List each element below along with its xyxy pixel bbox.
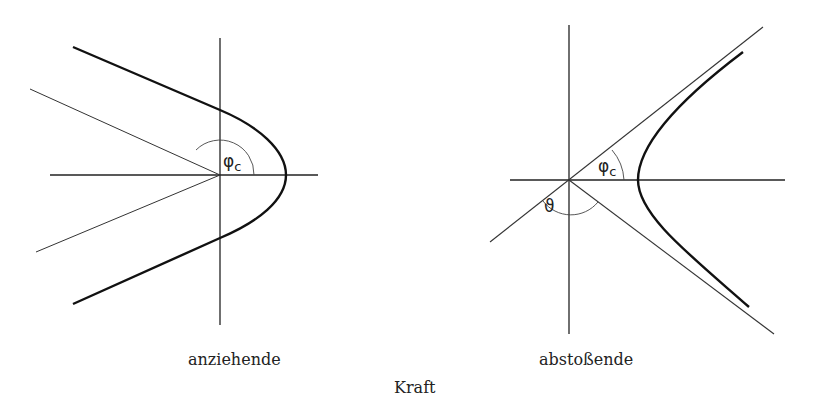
caption-attractive: anziehende	[188, 350, 281, 369]
phi-c-label: φc	[598, 156, 616, 179]
panel-attractive: φc	[30, 38, 318, 325]
theta-label: ϑ	[544, 196, 555, 216]
phi-c-label: φc	[223, 151, 241, 174]
asymptote-lower	[569, 180, 774, 334]
asymptote-lower	[36, 175, 220, 252]
panel-repulsive: φc ϑ	[490, 25, 785, 334]
asymptote-upper	[30, 89, 220, 175]
caption-repulsive: abstoßende	[539, 350, 633, 369]
caption-force: Kraft	[394, 378, 436, 397]
asymptote-upper	[490, 27, 763, 242]
orbit-diagrams: φc φc ϑ	[0, 0, 814, 402]
